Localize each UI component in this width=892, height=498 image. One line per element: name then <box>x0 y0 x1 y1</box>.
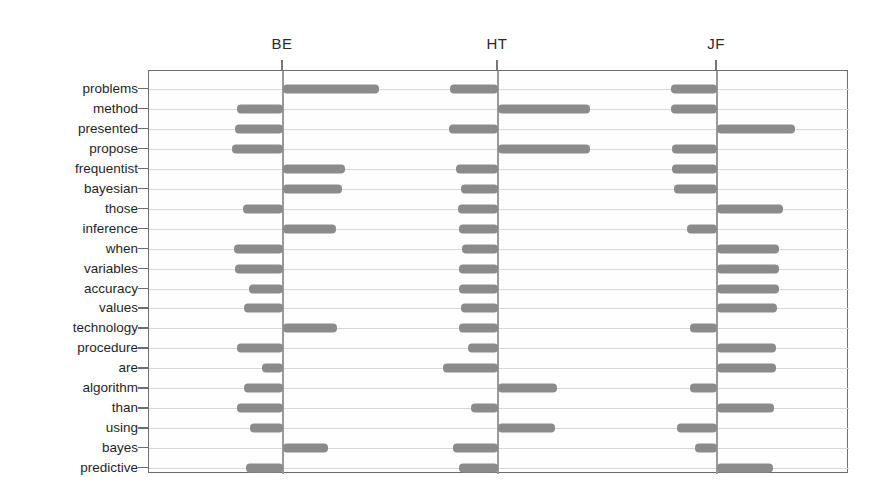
bar-jf-than <box>717 404 774 413</box>
row-tick-those <box>138 208 148 209</box>
bar-be-inference <box>283 224 336 233</box>
deviation-bar-chart: problemsmethodpresentedproposefrequentis… <box>0 0 892 498</box>
panel-tick-be <box>281 60 282 70</box>
bar-be-than <box>237 404 284 413</box>
row-label-problems: problems <box>82 81 138 96</box>
row-tick-procedure <box>138 347 148 348</box>
bar-jf-procedure <box>717 344 776 353</box>
bar-be-bayesian <box>283 184 342 193</box>
bar-be-values <box>244 304 283 313</box>
row-tick-method <box>138 108 148 109</box>
row-tick-than <box>138 407 148 408</box>
gridline <box>149 169 849 170</box>
bar-jf-are <box>717 364 776 373</box>
bar-ht-are <box>443 364 499 373</box>
row-label-technology: technology <box>73 320 138 335</box>
row-label-bayesian: bayesian <box>84 180 138 195</box>
bar-jf-those <box>717 204 783 213</box>
bar-ht-inference <box>459 224 498 233</box>
bar-ht-procedure <box>468 344 498 353</box>
row-tick-using <box>138 427 148 428</box>
bar-ht-values <box>461 304 499 313</box>
row-label-propose: propose <box>89 140 138 155</box>
bar-jf-inference <box>687 224 717 233</box>
row-tick-values <box>138 307 148 308</box>
bar-jf-values <box>717 304 777 313</box>
row-tick-bayesian <box>138 188 148 189</box>
row-tick-algorithm <box>138 387 148 388</box>
row-label-are: are <box>118 360 138 375</box>
bar-jf-bayes <box>695 444 718 453</box>
row-tick-technology <box>138 327 148 328</box>
plot-area <box>148 70 848 473</box>
panel-tick-ht <box>496 60 497 70</box>
bar-ht-algorithm <box>498 384 557 393</box>
row-label-than: than <box>112 400 138 415</box>
bar-ht-when <box>462 244 498 253</box>
bar-jf-accuracy <box>717 284 779 293</box>
bar-jf-predictive <box>717 464 773 473</box>
bar-ht-problems <box>450 85 498 94</box>
bar-be-predictive <box>246 464 284 473</box>
panel-header-be: BE <box>271 35 292 52</box>
bar-be-accuracy <box>249 284 284 293</box>
row-label-frequentist: frequentist <box>75 160 138 175</box>
row-label-bayes: bayes <box>102 440 138 455</box>
row-label-those: those <box>105 200 138 215</box>
bar-be-using <box>250 424 283 433</box>
bar-jf-problems <box>671 85 718 94</box>
row-tick-presented <box>138 128 148 129</box>
row-label-predictive: predictive <box>80 460 138 475</box>
gridline <box>149 229 849 230</box>
bar-be-those <box>243 204 284 213</box>
row-label-column: problemsmethodpresentedproposefrequentis… <box>0 0 138 498</box>
row-label-method: method <box>93 100 138 115</box>
row-label-when: when <box>106 240 138 255</box>
row-label-presented: presented <box>78 120 138 135</box>
row-label-accuracy: accuracy <box>84 280 138 295</box>
row-tick-variables <box>138 268 148 269</box>
row-tick-propose <box>138 148 148 149</box>
bar-ht-technology <box>459 324 498 333</box>
bar-ht-method <box>498 104 590 113</box>
bar-ht-predictive <box>459 464 498 473</box>
row-tick-predictive <box>138 467 148 468</box>
row-label-procedure: procedure <box>77 340 138 355</box>
row-tick-frequentist <box>138 168 148 169</box>
bar-ht-those <box>458 204 499 213</box>
bar-be-algorithm <box>244 384 283 393</box>
row-label-inference: inference <box>82 220 138 235</box>
row-tick-bayes <box>138 447 148 448</box>
bar-be-technology <box>283 324 337 333</box>
row-label-values: values <box>99 300 138 315</box>
bar-be-variables <box>235 264 283 273</box>
bar-be-frequentist <box>283 164 345 173</box>
gridline <box>149 448 849 449</box>
bar-jf-variables <box>717 264 779 273</box>
gridline <box>149 89 849 90</box>
row-tick-are <box>138 367 148 368</box>
bar-ht-frequentist <box>456 164 498 173</box>
bar-ht-than <box>471 404 498 413</box>
bar-ht-bayes <box>453 444 498 453</box>
row-tick-problems <box>138 88 148 89</box>
row-tick-accuracy <box>138 288 148 289</box>
row-label-using: using <box>106 420 138 435</box>
panel-header-ht: HT <box>487 35 508 52</box>
bar-jf-frequentist <box>672 164 717 173</box>
bar-ht-bayesian <box>461 184 499 193</box>
bar-ht-variables <box>459 264 498 273</box>
bar-ht-presented <box>449 124 499 133</box>
bar-jf-bayesian <box>674 184 718 193</box>
panel-tick-jf <box>715 60 716 70</box>
bar-ht-using <box>498 424 555 433</box>
bar-jf-technology <box>690 324 717 333</box>
bar-jf-propose <box>672 144 717 153</box>
bar-be-procedure <box>237 344 284 353</box>
bar-jf-method <box>671 104 718 113</box>
row-label-algorithm: algorithm <box>82 380 138 395</box>
row-tick-inference <box>138 228 148 229</box>
bar-be-propose <box>232 144 283 153</box>
bar-be-bayes <box>283 444 328 453</box>
bar-ht-accuracy <box>459 284 498 293</box>
